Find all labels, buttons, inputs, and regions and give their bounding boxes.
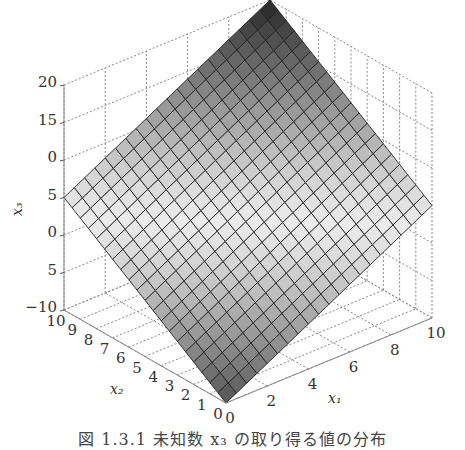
x2-tick-label: 5 [132,359,142,377]
x1-tick-label: 0 [225,409,235,427]
x1-tick-label: 4 [308,375,318,393]
x2-tick-label: 1 [197,396,207,414]
x2-tick-label: 10 [46,312,65,330]
x1-tick-label: 2 [266,392,276,410]
z-tick-label: 20 [38,73,57,91]
x2-tick-label: 8 [84,331,94,349]
x3-axis-label: x₃ [9,202,25,216]
x2-tick-label: 2 [181,386,191,404]
z-tick-label: 5 [47,261,57,279]
z-tick-label: 0 [47,223,57,241]
x1-tick-label: 6 [349,358,359,376]
x2-tick-label: 9 [67,321,77,339]
x2-tick-label: 4 [148,368,158,386]
x2-axis-label: x₂ [110,381,124,397]
x2-tick-label: 3 [165,377,175,395]
z-tick-label: 5 [47,186,57,204]
x2-tick-label: 0 [213,405,223,423]
figure-caption: 図 1.3.1 未知数 x₃ の取り得る値の分布 [0,426,465,450]
surface-mesh [64,0,432,403]
x1-tick-label: 8 [390,341,400,359]
z-tick-label: 0 [47,148,57,166]
x2-tick-label: 6 [116,349,126,367]
z-tick-label: 15 [38,111,57,129]
x2-tick-label: 7 [100,340,110,358]
x1-tick-label: 10 [426,324,445,342]
x1-axis-label: x₁ [328,390,342,406]
